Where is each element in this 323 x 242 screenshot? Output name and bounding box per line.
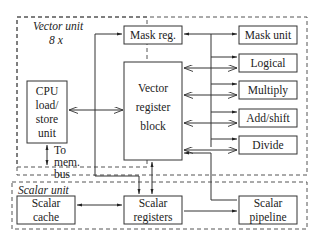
- svg-text:Mask unit: Mask unit: [245, 29, 292, 41]
- svg-text:store: store: [36, 113, 58, 125]
- svg-text:cache: cache: [33, 211, 59, 223]
- mask-reg-box: Mask reg.: [124, 26, 182, 44]
- svg-text:Mask reg.: Mask reg.: [130, 29, 176, 42]
- svg-text:Add/shift: Add/shift: [246, 112, 290, 124]
- add-shift-unit-box: Add/shift: [239, 109, 297, 127]
- svg-text:CPU: CPU: [36, 85, 59, 97]
- vector-unit-multiplier: 8 x: [49, 34, 64, 46]
- svg-text:Scalar: Scalar: [32, 197, 61, 209]
- mem-bus-label: To mem. bus: [54, 144, 80, 180]
- to-mask-reg-arrow: [95, 34, 122, 176]
- cpu-load-store-unit: CPU load/ store unit: [27, 81, 67, 143]
- svg-text:unit: unit: [38, 127, 57, 139]
- scalar-cache-box: Scalar cache: [17, 196, 75, 224]
- svg-text:pipeline: pipeline: [249, 211, 286, 224]
- divide-unit-box: Divide: [239, 136, 297, 154]
- scalar-registers-box: Scalar registers: [124, 196, 182, 224]
- mask-unit-box: Mask unit: [239, 26, 297, 44]
- svg-text:registers: registers: [134, 211, 173, 224]
- scalar-unit-label: Scalar unit: [18, 184, 70, 196]
- pipeline-to-vrb-arrow: [184, 153, 237, 200]
- svg-text:bus: bus: [54, 168, 71, 180]
- svg-text:To: To: [54, 144, 66, 156]
- scalar-pipeline-box: Scalar pipeline: [239, 196, 297, 224]
- vector-register-block: Vector register block: [124, 62, 182, 160]
- svg-text:mem.: mem.: [54, 156, 80, 168]
- logical-unit-box: Logical: [239, 54, 297, 72]
- svg-text:register: register: [136, 101, 171, 114]
- svg-text:block: block: [140, 120, 166, 132]
- vector-unit-label: Vector unit: [33, 20, 84, 32]
- multiply-unit-box: Multiply: [239, 81, 297, 99]
- svg-text:Logical: Logical: [250, 57, 285, 70]
- svg-text:Multiply: Multiply: [248, 84, 289, 97]
- svg-text:Divide: Divide: [252, 139, 283, 151]
- vector-processor-diagram: Vector unit 8 x Scalar unit CPU load/ st…: [0, 0, 323, 242]
- svg-text:Scalar: Scalar: [254, 197, 283, 209]
- svg-text:load/: load/: [36, 99, 60, 111]
- svg-text:Scalar: Scalar: [139, 197, 168, 209]
- to-scalar-registers-arrow: [95, 176, 139, 194]
- svg-text:Vector: Vector: [138, 82, 168, 94]
